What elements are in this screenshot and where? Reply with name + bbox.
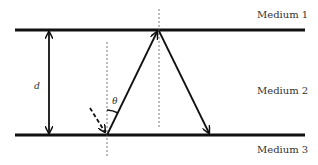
medium-3-label: Medium 3 xyxy=(257,144,308,155)
ray-down xyxy=(159,31,209,133)
medium-2-label: Medium 2 xyxy=(257,85,308,96)
thickness-label: d xyxy=(34,79,40,91)
medium-1-label: Medium 1 xyxy=(257,9,308,20)
waveguide-diagram: d θ Medium 1 Medium 2 Medium 3 xyxy=(0,0,318,165)
angle-label: θ xyxy=(112,94,118,106)
angle-arc xyxy=(107,110,118,113)
ray-up xyxy=(107,32,157,135)
incident-ray xyxy=(90,108,105,132)
